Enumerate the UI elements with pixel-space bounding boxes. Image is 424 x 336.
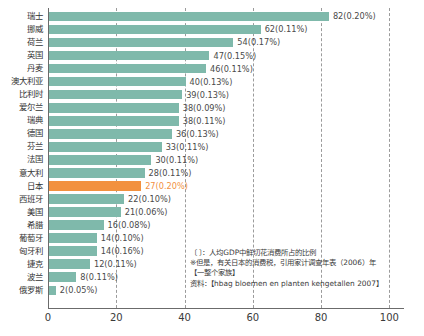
- bar-俄罗斯: [49, 286, 56, 296]
- bar-芬兰: [49, 142, 162, 152]
- bar-value-label: 38(0.09%): [183, 102, 226, 114]
- bar-葡萄牙: [49, 233, 97, 243]
- category-label-西班牙: 西班牙: [19, 193, 43, 206]
- category-label-瑞典: 瑞典: [27, 114, 43, 127]
- x-tick-label-20: 20: [110, 312, 123, 324]
- bar-value-label: 8(0.11%): [80, 271, 118, 283]
- category-label-荷兰: 荷兰: [27, 36, 43, 49]
- bar-value-label: 30(0.11%): [155, 154, 198, 166]
- category-label-捷克: 捷克: [27, 258, 43, 271]
- bar-挪威: [49, 25, 261, 35]
- bar-row: 16(0.08%): [48, 219, 403, 232]
- bar-row: 36(0.13%): [48, 127, 403, 140]
- bar-value-label: 54(0.17%): [237, 36, 280, 48]
- x-tick-label-60: 60: [246, 312, 259, 324]
- bar-row: 33(0.11%): [48, 140, 403, 153]
- bar-row: 30(0.11%): [48, 153, 403, 166]
- bar-捷克: [49, 259, 90, 269]
- bar-希腊: [49, 220, 104, 230]
- category-label-希腊: 希腊: [27, 219, 43, 232]
- footnote: 〔 〕：人均GDP中鲜切花消费所占的比例 ※但是，有关日本的消费税，引用家计调查…: [190, 248, 422, 289]
- category-label-挪威: 挪威: [27, 23, 43, 36]
- bar-value-label: 82(0.20%): [333, 10, 376, 22]
- bar-row: 39(0.13%): [48, 88, 403, 101]
- x-tick-label-80: 80: [315, 312, 328, 324]
- bar-chart: 瑞士挪威荷兰英国丹麦澳大利亚比利时爱尔兰瑞典德国芬兰法国意大利日本西班牙美国希腊…: [0, 0, 424, 336]
- category-label-匈牙利: 匈牙利: [19, 245, 43, 258]
- bar-丹麦: [49, 64, 206, 74]
- x-tick-label-40: 40: [178, 312, 191, 324]
- x-axis-line: [48, 308, 404, 309]
- bar-比利时: [49, 90, 182, 100]
- bar-value-label: 16(0.08%): [108, 219, 151, 231]
- category-label-意大利: 意大利: [19, 167, 43, 180]
- bar-value-label: 22(0.10%): [128, 193, 171, 205]
- bar-row: 40(0.13%): [48, 75, 403, 88]
- bar-value-label: 2(0.05%): [60, 284, 98, 296]
- category-label-丹麦: 丹麦: [27, 62, 43, 75]
- category-label-爱尔兰: 爱尔兰: [19, 101, 43, 114]
- category-label-德国: 德国: [27, 127, 43, 140]
- bar-value-label: 21(0.06%): [125, 206, 168, 218]
- bar-value-label: 36(0.13%): [176, 128, 219, 140]
- category-label-波兰: 波兰: [27, 271, 43, 284]
- footnote-line-3: 【一整个家族】: [190, 268, 422, 278]
- category-label-比利时: 比利时: [19, 88, 43, 101]
- footnote-line-4: 资料：【hbag bloemen en planten kengetallen …: [190, 279, 422, 289]
- category-label-英国: 英国: [27, 49, 43, 62]
- bar-波兰: [49, 272, 76, 282]
- bar-value-label: 39(0.13%): [186, 89, 229, 101]
- bar-瑞典: [49, 116, 179, 126]
- bar-爱尔兰: [49, 103, 179, 113]
- y-axis-category-labels: 瑞士挪威荷兰英国丹麦澳大利亚比利时爱尔兰瑞典德国芬兰法国意大利日本西班牙美国希腊…: [0, 8, 46, 308]
- category-label-日本: 日本: [27, 180, 43, 193]
- bar-row: 47(0.15%): [48, 49, 403, 62]
- bar-匈牙利: [49, 246, 97, 256]
- bar-法国: [49, 155, 151, 165]
- bar-value-label: 27(0.20%): [145, 180, 188, 192]
- bar-value-label: 62(0.11%): [265, 23, 308, 35]
- bar-西班牙: [49, 194, 124, 204]
- bar-value-label: 14(0.10%): [101, 232, 144, 244]
- bar-value-label: 12(0.11%): [94, 258, 137, 270]
- category-label-葡萄牙: 葡萄牙: [19, 232, 43, 245]
- category-label-瑞士: 瑞士: [27, 10, 43, 23]
- bar-row: 54(0.17%): [48, 36, 403, 49]
- bar-value-label: 40(0.13%): [190, 76, 233, 88]
- bar-row: 46(0.11%): [48, 62, 403, 75]
- footnote-line-1: 〔 〕：人均GDP中鲜切花消费所占的比例: [190, 248, 422, 258]
- bar-value-label: 33(0.11%): [166, 141, 209, 153]
- bar-美国: [49, 207, 121, 217]
- category-label-俄罗斯: 俄罗斯: [19, 284, 43, 297]
- bar-row: 21(0.06%): [48, 206, 403, 219]
- bar-row: 28(0.11%): [48, 167, 403, 180]
- x-tick-label-0: 0: [45, 312, 51, 324]
- bar-row: 14(0.10%): [48, 232, 403, 245]
- bar-row: 22(0.10%): [48, 193, 403, 206]
- bar-value-label: 46(0.11%): [210, 63, 253, 75]
- bar-value-label: 38(0.11%): [183, 115, 226, 127]
- x-tick-label-100: 100: [380, 312, 399, 324]
- bar-意大利: [49, 168, 145, 178]
- bar-row: 62(0.11%): [48, 23, 403, 36]
- bar-荷兰: [49, 38, 233, 48]
- category-label-美国: 美国: [27, 206, 43, 219]
- bar-value-label: 47(0.15%): [213, 50, 256, 62]
- bar-value-label: 28(0.11%): [149, 167, 192, 179]
- bar-row: 82(0.20%): [48, 10, 403, 23]
- category-label-澳大利亚: 澳大利亚: [11, 75, 43, 88]
- bar-日本: [49, 181, 141, 191]
- bar-row: 38(0.09%): [48, 101, 403, 114]
- category-label-芬兰: 芬兰: [27, 140, 43, 153]
- bar-澳大利亚: [49, 77, 186, 87]
- bar-row: 27(0.20%): [48, 180, 403, 193]
- bar-英国: [49, 51, 209, 61]
- bar-德国: [49, 129, 172, 139]
- category-label-法国: 法国: [27, 153, 43, 166]
- bar-row: 38(0.11%): [48, 114, 403, 127]
- bar-value-label: 14(0.16%): [101, 245, 144, 257]
- bar-瑞士: [49, 12, 329, 22]
- footnote-line-2: ※但是，有关日本的消费税，引用家计调查年表（2006）年: [190, 258, 422, 268]
